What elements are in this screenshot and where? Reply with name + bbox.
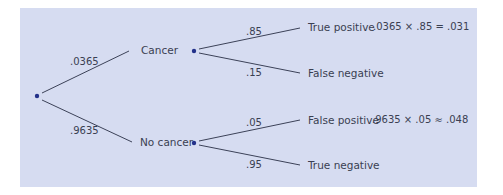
label-cancer: Cancer [141,45,178,56]
equation-true-positive: .0365 × .85 = .031 [373,22,469,32]
probability-false-positive: .05 [246,118,262,128]
label-true-positive: True positive [308,22,375,33]
label-true-negative: True negative [308,160,380,171]
label-false-negative: False negative [308,68,384,79]
probability-no-cancer: .9635 [70,126,99,136]
label-false-positive: False positive [308,115,379,126]
cancer-node [192,49,196,53]
probability-cancer: .0365 [70,57,99,67]
root-node [35,94,39,98]
probability-true-negative: .95 [246,160,262,170]
probability-false-negative: .15 [246,68,262,78]
equation-false-positive: .9635 × .05 ≈ .048 [372,115,468,125]
label-no-cancer: No cancer [140,137,193,148]
probability-true-positive: .85 [246,27,262,37]
